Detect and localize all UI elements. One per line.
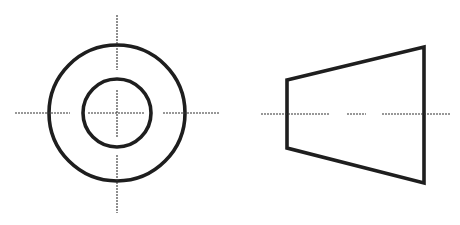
technical-drawing [0,0,460,225]
front-view [15,15,220,213]
frustum-outline [287,47,424,183]
side-view [261,47,450,183]
